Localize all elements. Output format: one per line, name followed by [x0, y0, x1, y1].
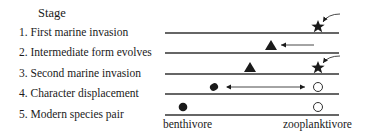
open-circle-icon [314, 103, 323, 112]
star-icon [311, 20, 324, 32]
curved-arrow-icon [323, 56, 340, 63]
triangle-icon [244, 62, 256, 72]
star-icon [311, 61, 324, 73]
filled-circle-icon [179, 103, 188, 112]
benthivore-label: benthivore [163, 119, 212, 131]
filled-circle-icon [209, 82, 220, 92]
open-circle-icon [314, 83, 323, 92]
curved-arrow-icon [323, 14, 340, 22]
triangle-icon [265, 40, 277, 50]
zooplanktivore-label: zooplanktivore [283, 119, 352, 131]
stage-diagram [0, 0, 371, 137]
